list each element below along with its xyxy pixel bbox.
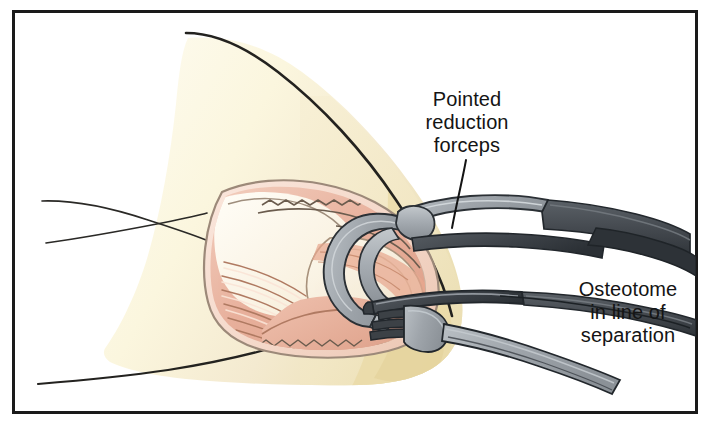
osteotome-cutting-tip — [363, 302, 374, 314]
surgical-illustration-canvas — [0, 0, 711, 425]
label-line-1: Pointed — [392, 88, 542, 111]
pointed-reduction-forceps-label: Pointed reduction forceps — [392, 88, 542, 157]
forceps-hinge-block — [396, 206, 435, 240]
label-line-3: forceps — [392, 134, 542, 157]
label-line-2: in line of — [552, 301, 704, 324]
label-line-1: Osteotome — [552, 278, 704, 301]
osteotome-label: Osteotome in line of separation — [552, 278, 704, 347]
figure-root: Pointed reduction forceps Osteotome in l… — [0, 0, 711, 425]
label-line-2: reduction — [392, 111, 542, 134]
label-line-3: separation — [552, 324, 704, 347]
